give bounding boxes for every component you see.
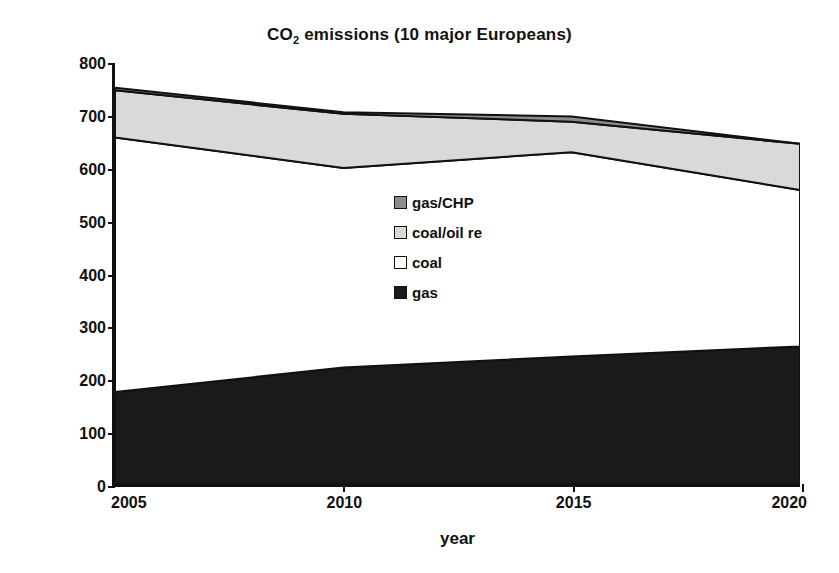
y-tick-label: 700 [48,108,106,126]
legend-swatch-icon [394,226,407,239]
y-tick-mark [108,63,115,65]
x-tick-mark [573,484,575,492]
y-tick-label: 600 [48,161,106,179]
legend-label: gas [412,284,438,301]
legend-item: gas/CHP [394,194,482,211]
legend-item: coal [394,254,482,271]
legend-label: coal [412,254,442,271]
legend-item: gas [394,284,482,301]
x-tick-label: 2015 [556,494,592,512]
chart-title-rest: emissions (10 major Europeans) [299,25,572,44]
y-tick-mark [108,222,115,224]
y-tick-label: 300 [48,319,106,337]
chart-figure: CO2 emissions (10 major Europeans) CO2 m… [0,0,839,573]
chart-legend: gas/CHPcoal/oil recoalgas [394,194,482,301]
x-tick-label: 2005 [111,494,147,512]
y-tick-mark [108,169,115,171]
legend-label: gas/CHP [412,194,474,211]
y-tick-label: 200 [48,372,106,390]
legend-label: coal/oil re [412,224,482,241]
y-tick-mark [108,380,115,382]
y-tick-mark [108,327,115,329]
x-tick-mark [343,484,345,492]
x-tick-label: 2020 [771,494,807,512]
legend-swatch-icon [394,196,407,209]
y-tick-label: 100 [48,425,106,443]
y-tick-mark [108,116,115,118]
x-tick-mark [802,484,804,492]
y-tick-label: 500 [48,214,106,232]
chart-title-main: CO [267,25,293,44]
x-axis-title: year [115,529,800,549]
y-tick-label: 800 [48,55,106,73]
y-tick-mark [108,486,115,488]
y-tick-label: 400 [48,267,106,285]
chart-title: CO2 emissions (10 major Europeans) [0,25,839,46]
legend-swatch-icon [394,286,407,299]
x-tick-label: 2010 [327,494,363,512]
y-tick-mark [108,433,115,435]
y-tick-mark [108,275,115,277]
y-tick-label: 0 [48,478,106,496]
legend-swatch-icon [394,256,407,269]
legend-item: coal/oil re [394,224,482,241]
